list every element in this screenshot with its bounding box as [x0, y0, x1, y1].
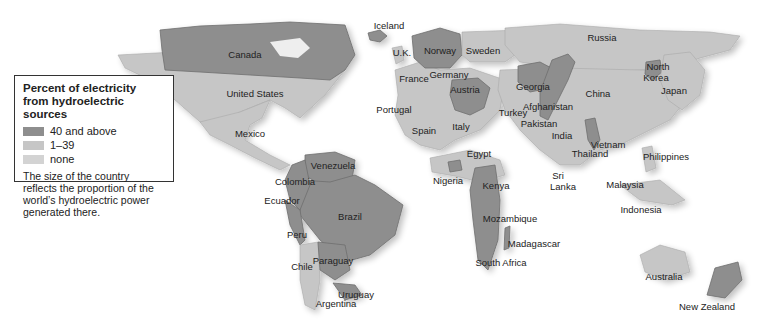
legend-swatch-mid [23, 141, 44, 150]
label-korea: Korea [643, 72, 669, 83]
legend-note: The size of the country reflects the pro… [23, 170, 165, 218]
label-paraguay: Paraguay [313, 255, 354, 266]
label-afghanistan: Afghanistan [523, 101, 573, 112]
label-sweden: Sweden [466, 45, 500, 56]
label-canada: Canada [228, 49, 262, 60]
label-new-zealand: New Zealand [679, 301, 735, 312]
legend-item-high: 40 and above [23, 124, 165, 138]
label-spain: Spain [412, 125, 436, 136]
label-brazil: Brazil [338, 211, 362, 222]
legend-label-mid: 1–39 [50, 139, 74, 151]
label-kenya: Kenya [483, 180, 511, 191]
label-venezuela: Venezuela [311, 160, 356, 171]
label-france: France [399, 73, 429, 84]
label-nigeria: Nigeria [433, 175, 464, 186]
label-italy: Italy [452, 121, 470, 132]
label-norway: Norway [424, 45, 456, 56]
label-australia: Australia [646, 271, 684, 282]
label-austria: Austria [450, 84, 480, 95]
label-georgia: Georgia [516, 81, 551, 92]
label-portugal: Portugal [376, 104, 411, 115]
label-peru: Peru [287, 229, 307, 240]
legend-title: Percent of electricity from hydroelectri… [23, 82, 165, 121]
label-thailand: Thailand [572, 148, 608, 159]
label-pakistan: Pakistan [521, 118, 557, 129]
legend-swatch-none [23, 155, 44, 164]
label-ecuador: Ecuador [264, 195, 299, 206]
country-iceland [368, 30, 387, 42]
label-mexico: Mexico [235, 128, 265, 139]
legend-item-mid: 1–39 [23, 138, 165, 152]
label-india: India [552, 130, 573, 141]
label-colombia: Colombia [275, 176, 316, 187]
label-madagascar: Madagascar [508, 238, 560, 249]
label-indonesia: Indonesia [620, 204, 662, 215]
label-germany: Germany [429, 69, 468, 80]
label-mozambique: Mozambique [483, 213, 537, 224]
label-japan: Japan [661, 85, 687, 96]
label-iceland: Iceland [374, 20, 405, 31]
label-chile: Chile [291, 261, 313, 272]
label-malaysia: Malaysia [606, 179, 644, 190]
label-north: North [646, 61, 669, 72]
map-legend: Percent of electricity from hydroelectri… [14, 75, 174, 182]
legend-label-high: 40 and above [50, 125, 117, 137]
legend-swatch-high [23, 127, 44, 136]
label-sri: Sri [552, 170, 564, 181]
label-united-states: United States [226, 88, 283, 99]
label-egypt: Egypt [467, 148, 492, 159]
label-philippines: Philippines [643, 151, 689, 162]
label-china: China [586, 88, 612, 99]
label-lanka: Lanka [550, 181, 577, 192]
country-new-zealand [707, 262, 742, 298]
label-argentina: Argentina [316, 298, 357, 309]
country-nigeria [448, 160, 462, 172]
legend-title-line2: from hydroelectric sources [23, 95, 165, 121]
legend-label-none: none [50, 153, 74, 165]
label-south-africa: South Africa [475, 257, 527, 268]
label-russia: Russia [587, 32, 617, 43]
legend-title-line1: Percent of electricity [23, 82, 165, 95]
legend-item-none: none [23, 152, 165, 166]
label-uk: U.K. [393, 47, 411, 58]
